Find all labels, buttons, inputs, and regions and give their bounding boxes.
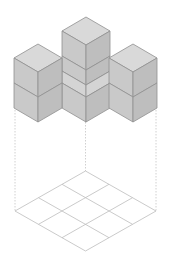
projection-lines bbox=[15, 110, 156, 211]
cube-stack bbox=[14, 17, 157, 122]
base-grid bbox=[15, 171, 156, 251]
isometric-cube-figure bbox=[0, 0, 172, 265]
